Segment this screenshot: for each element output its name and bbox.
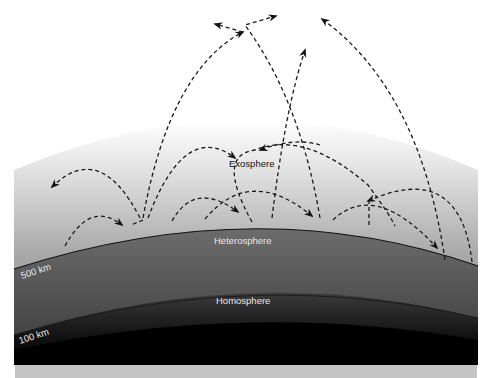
homosphere-label: Homosphere (216, 295, 270, 306)
footer-bar (15, 365, 477, 378)
heterosphere-label: Heterosphere (214, 235, 272, 246)
atmosphere-diagram: Exosphere Heterosphere Homosphere 500 km… (0, 0, 492, 378)
trajectory-escape-1b (215, 24, 243, 32)
exosphere-label: Exosphere (229, 158, 274, 169)
